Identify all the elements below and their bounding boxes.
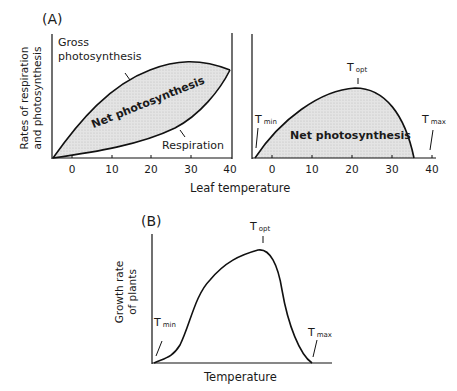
- tick-left-0: 0: [69, 163, 76, 175]
- tick-left-30: 30: [184, 163, 197, 175]
- panel-b-plot: [152, 234, 332, 364]
- tick-left-20: 20: [144, 163, 157, 175]
- tmin-label-a: Tmin: [255, 114, 277, 126]
- tmin-label-b: Tmin: [154, 317, 176, 329]
- tick-left-40: 40: [223, 163, 236, 175]
- tmax-label-b: Tmax: [308, 327, 332, 339]
- panel-b-x-axis-label: Temperature: [204, 372, 277, 384]
- gross-line-1: Gross: [58, 37, 142, 48]
- topt-label-a: Topt: [347, 62, 367, 74]
- panel-a-label: (A): [42, 12, 63, 26]
- panel-b-y-axis-label: Growth rate of plants: [113, 247, 139, 337]
- tmax-label-a: Tmax: [422, 114, 446, 126]
- tick-right-30: 30: [385, 163, 398, 175]
- panel-a-x-axis-label: Leaf temperature: [190, 183, 290, 195]
- topt-label-b: Topt: [250, 221, 270, 233]
- panel-a-y-axis-label: Rates of respiration and photosynthesis: [18, 28, 44, 168]
- tick-left-10: 10: [105, 163, 118, 175]
- y-label-line-2: of plants: [126, 247, 139, 337]
- y-label-line-1: Rates of respiration: [18, 28, 31, 168]
- y-label-line-2: and photosynthesis: [31, 28, 44, 168]
- tick-right-10: 10: [305, 163, 318, 175]
- tick-right-0: 0: [269, 163, 276, 175]
- tick-right-20: 20: [345, 163, 358, 175]
- panel-b-label: (B): [141, 214, 162, 228]
- gross-line-2: photosynthesis: [58, 51, 142, 62]
- net-photosynthesis-right-label: Net photosynthesis: [290, 130, 411, 141]
- y-label-line-1: Growth rate: [113, 247, 126, 337]
- gross-photosynthesis-label: Gross photosynthesis: [58, 37, 142, 62]
- respiration-label: Respiration: [162, 140, 224, 151]
- tick-right-40: 40: [425, 163, 438, 175]
